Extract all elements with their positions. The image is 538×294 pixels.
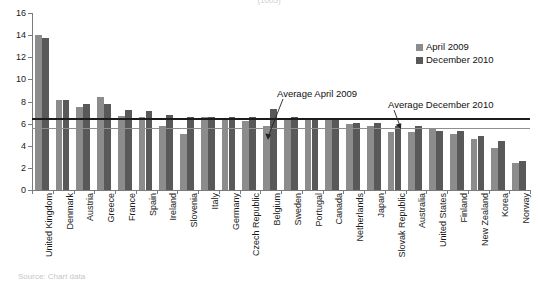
- bar-april-2009: [367, 126, 374, 190]
- x-category-label: Portugal: [315, 193, 324, 227]
- bar-group: [364, 13, 385, 190]
- bar-april-2009: [222, 119, 229, 190]
- bar-december-2010: [83, 104, 90, 190]
- bar-group: [281, 13, 302, 190]
- bar-december-2010: [395, 126, 402, 190]
- bar-april-2009: [35, 35, 42, 190]
- annotation-average-december: Average December 2010: [388, 99, 493, 110]
- bar-december-2010: [42, 38, 49, 190]
- bar-april-2009: [388, 132, 395, 190]
- bar-chart: (1005) 0246810121416 Average April 2009 …: [0, 0, 538, 294]
- bar-april-2009: [408, 132, 415, 190]
- x-category-label: Ireland: [169, 193, 178, 221]
- bar-group: [323, 13, 344, 190]
- bar-group: [177, 13, 198, 190]
- bar-april-2009: [450, 134, 457, 190]
- bar-april-2009: [118, 116, 125, 190]
- y-tick-label: 8: [21, 97, 26, 106]
- x-category-label: Italy: [211, 193, 220, 210]
- bar-december-2010: [436, 131, 443, 190]
- x-category-label: Germany: [232, 193, 241, 230]
- y-tick-label: 14: [16, 31, 26, 40]
- x-category-label: France: [128, 193, 137, 221]
- bar-april-2009: [512, 163, 519, 190]
- bar-december-2010: [63, 100, 70, 190]
- bar-group: [115, 13, 136, 190]
- bar-april-2009: [346, 124, 353, 190]
- annotation-average-april: Average April 2009: [277, 88, 357, 99]
- bar-april-2009: [305, 119, 312, 190]
- x-category-label: Canada: [335, 193, 344, 225]
- bar-april-2009: [429, 128, 436, 190]
- source-fragment: Source: Chart data: [18, 272, 85, 281]
- x-category-label: United Kingdom: [45, 193, 54, 257]
- bar-december-2010: [519, 161, 526, 190]
- bar-april-2009: [242, 121, 249, 190]
- bar-december-2010: [374, 123, 381, 190]
- bar-april-2009: [97, 97, 104, 190]
- bar-group: [74, 13, 95, 190]
- x-category-label: Greece: [107, 193, 116, 223]
- y-tick-label: 4: [21, 141, 26, 150]
- bar-group: [198, 13, 219, 190]
- chart-legend: April 2009 December 2010: [416, 41, 494, 67]
- y-tick-label: 16: [16, 9, 26, 18]
- x-category-label: Australia: [418, 193, 427, 228]
- x-category-label: Denmark: [66, 193, 75, 230]
- bar-december-2010: [498, 141, 505, 190]
- bar-december-2010: [104, 104, 111, 190]
- bar-group: [219, 13, 240, 190]
- bar-december-2010: [125, 110, 132, 190]
- bar-december-2010: [270, 109, 277, 190]
- bar-april-2009: [263, 126, 270, 190]
- bar-group: [343, 13, 364, 190]
- x-category-label: Austria: [86, 193, 95, 221]
- bar-group: [260, 13, 281, 190]
- legend-label: April 2009: [426, 42, 469, 52]
- bar-group: [53, 13, 74, 190]
- x-category-label: Korea: [501, 193, 510, 217]
- legend-item-april: April 2009: [416, 41, 494, 53]
- bar-group: [157, 13, 178, 190]
- bar-group: [302, 13, 323, 190]
- reference-line-december-average: [32, 128, 530, 129]
- bar-december-2010: [146, 111, 153, 190]
- x-category-label: Czech Republic: [252, 193, 261, 256]
- bar-december-2010: [457, 131, 464, 190]
- bar-december-2010: [353, 123, 360, 190]
- bar-group: [32, 13, 53, 190]
- x-category-label: New Zealand: [481, 193, 490, 246]
- bar-april-2009: [471, 139, 478, 190]
- bar-december-2010: [166, 115, 173, 190]
- bar-december-2010: [332, 119, 339, 190]
- legend-swatch-icon: [416, 57, 423, 64]
- bar-april-2009: [159, 126, 166, 190]
- bar-april-2009: [56, 100, 63, 190]
- bar-april-2009: [491, 148, 498, 190]
- bar-december-2010: [478, 136, 485, 190]
- x-axis-category-labels: United KingdomDenmarkAustriaGreeceFrance…: [32, 193, 530, 281]
- bar-group: [240, 13, 261, 190]
- x-category-label: Sweden: [294, 193, 303, 226]
- x-category-label: Slovak Republic: [398, 193, 407, 258]
- bar-april-2009: [180, 134, 187, 190]
- legend-item-december: December 2010: [416, 54, 494, 66]
- reference-line-april-average: [32, 118, 530, 120]
- x-category-label: Finland: [460, 193, 469, 223]
- bar-april-2009: [325, 120, 332, 190]
- y-tick-label: 10: [16, 75, 26, 84]
- x-category-label: United States: [439, 193, 448, 247]
- title-fragment: (1005): [0, 0, 538, 5]
- legend-label: December 2010: [426, 55, 494, 65]
- x-category-label: Belgium: [273, 193, 282, 226]
- y-tick-label: 6: [21, 119, 26, 128]
- x-category-label: Netherlands: [356, 193, 365, 242]
- bar-group: [509, 13, 530, 190]
- x-category-label: Spain: [149, 193, 158, 216]
- x-category-label: Norway: [522, 193, 531, 224]
- legend-swatch-icon: [416, 44, 423, 51]
- y-tick-label: 0: [21, 186, 26, 195]
- bar-group: [94, 13, 115, 190]
- x-category-label: Japan: [377, 193, 386, 218]
- bar-december-2010: [415, 126, 422, 190]
